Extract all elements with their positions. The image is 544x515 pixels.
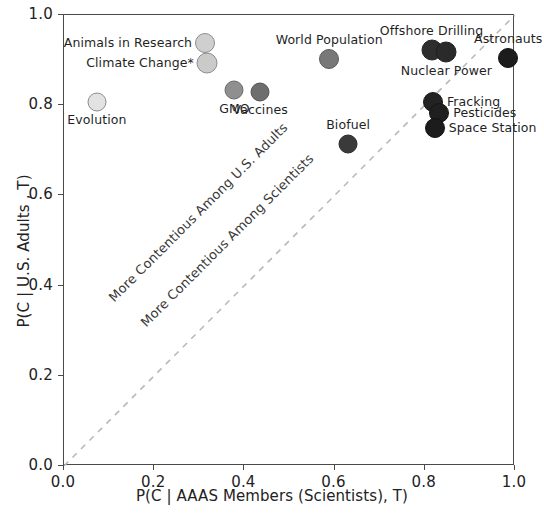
- x-tick: [514, 465, 515, 470]
- data-point: [225, 81, 244, 100]
- data-point-label: Evolution: [67, 114, 126, 127]
- data-point-label: Nuclear Power: [401, 65, 492, 78]
- y-tick-label: 1.0: [9, 5, 53, 23]
- data-point-label: Biofuel: [326, 119, 370, 132]
- data-point-label: Offshore Drilling: [380, 24, 483, 37]
- y-tick: [58, 194, 63, 195]
- data-point-label: Pesticides: [453, 107, 516, 120]
- data-point-label: Vaccines: [232, 104, 287, 117]
- y-tick: [58, 375, 63, 376]
- identity-reference-line: [64, 15, 515, 466]
- data-point-label: Space Station: [449, 122, 537, 135]
- y-tick: [58, 104, 63, 105]
- data-point-label: Astronauts: [474, 33, 542, 46]
- data-point: [195, 33, 215, 53]
- data-point: [251, 82, 270, 101]
- data-point: [498, 48, 518, 68]
- data-point: [339, 134, 358, 153]
- y-axis-title: P(C | U.S. Adults , T): [15, 141, 33, 361]
- x-tick: [153, 465, 154, 470]
- plot-area: More Contentious Among U.S. AdultsMore C…: [63, 14, 514, 465]
- y-tick-label: 0.0: [9, 456, 53, 474]
- data-point-label: Animals in Research: [64, 37, 192, 50]
- y-tick: [58, 285, 63, 286]
- x-tick: [243, 465, 244, 470]
- data-point-label: World Population: [276, 34, 383, 47]
- y-tick: [58, 14, 63, 15]
- data-point-label: Climate Change*: [86, 57, 194, 70]
- y-tick-label: 0.2: [9, 366, 53, 384]
- chart-canvas: More Contentious Among U.S. AdultsMore C…: [0, 0, 544, 515]
- data-point: [197, 53, 218, 74]
- data-point: [87, 92, 106, 111]
- y-tick-label: 0.8: [9, 95, 53, 113]
- x-tick: [424, 465, 425, 470]
- data-point: [425, 118, 445, 138]
- x-axis-title: P(C | AAAS Members (Scientists), T): [0, 487, 544, 505]
- x-tick: [334, 465, 335, 470]
- data-point: [436, 41, 457, 62]
- data-point: [319, 49, 339, 69]
- x-tick: [63, 465, 64, 470]
